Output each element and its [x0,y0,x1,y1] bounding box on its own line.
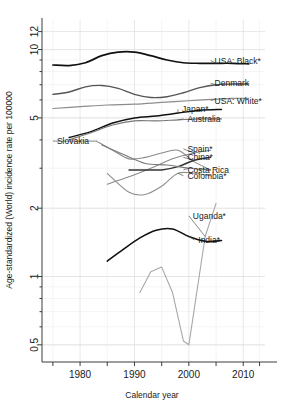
y-tick-label: 10 [30,44,41,56]
y-tick-label: 2 [30,205,41,211]
series-label: Slovakia [57,136,89,146]
series-label: China* [187,152,213,162]
series-label: India* [198,235,220,245]
x-tick-label: 1990 [123,369,146,380]
x-tick-label: 1980 [69,369,92,380]
series-line [140,203,216,344]
series-labels-layer: USA: Black*DenmarkUSA: White*Japan*Austr… [53,56,263,245]
x-axis-title: Calendar year [125,390,179,400]
series-label: Denmark [215,78,250,88]
axes-layer [38,18,277,366]
y-tick-label: 1 [30,273,41,279]
x-tick-label: 2000 [178,369,201,380]
series-label: USA: Black* [215,56,262,66]
incidence-rate-line-chart: USA: Black*DenmarkUSA: White*Japan*Austr… [0,0,300,416]
y-tick-label: 0.5 [30,337,41,351]
series-label: Colombia* [187,171,227,181]
chart-canvas: USA: Black*DenmarkUSA: White*Japan*Austr… [0,0,300,416]
x-tick-label: 2010 [232,369,255,380]
y-tick-label: 5 [30,115,41,121]
y-axis-title: Age-standardized (World) incidence rate … [4,91,14,289]
y-tick-label: 12 [29,26,40,38]
series-label-leader [178,173,183,175]
series-label: USA: White* [215,96,263,106]
series-label: Australia [187,114,220,124]
series-label: Uganda* [193,211,227,221]
